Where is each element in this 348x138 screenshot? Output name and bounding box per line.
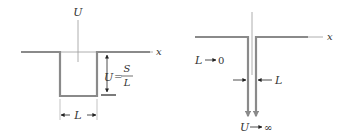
limit-height-value: ∞ bbox=[264, 122, 272, 133]
height-label-num: S bbox=[124, 63, 131, 74]
well-wall-left bbox=[195, 37, 248, 116]
limit-height-var: U bbox=[240, 121, 250, 134]
u-axis-label: U bbox=[73, 6, 83, 19]
height-label-lhs: U bbox=[104, 71, 114, 84]
delta-limit-diagram: x L 0 L U ∞ bbox=[194, 12, 333, 134]
width-label-right: L bbox=[274, 74, 282, 87]
limit-width-var: L bbox=[194, 54, 202, 67]
x-axis-label-right: x bbox=[327, 31, 333, 42]
x-axis-label: x bbox=[156, 46, 162, 57]
height-label-den: L bbox=[123, 77, 131, 88]
well-outline bbox=[21, 52, 150, 96]
diagram-canvas: U x U = S L L x L 0 L U ∞ bbox=[0, 0, 348, 138]
height-label-eq: = bbox=[114, 71, 122, 82]
finite-well-diagram: U x U = S L L bbox=[21, 6, 162, 122]
limit-width-value: 0 bbox=[218, 55, 224, 66]
width-label: L bbox=[73, 109, 81, 122]
